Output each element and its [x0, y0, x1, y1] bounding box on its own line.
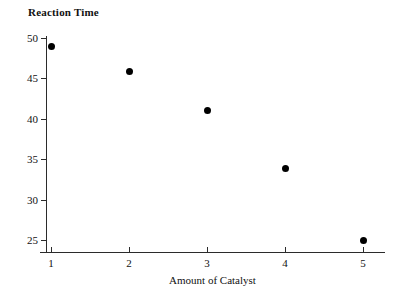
x-tick-label: 3 [195, 258, 219, 269]
data-point [48, 43, 55, 50]
y-tick-label: 25 [14, 235, 38, 246]
y-tick-label: 30 [14, 195, 38, 206]
x-tick-label: 1 [39, 258, 63, 269]
data-point [282, 165, 289, 172]
data-point [360, 237, 367, 244]
x-tick-label: 5 [351, 258, 375, 269]
x-axis-line [40, 252, 385, 253]
y-tick-mark [41, 119, 47, 120]
x-tick-mark [285, 247, 286, 253]
y-tick-label: 40 [14, 114, 38, 125]
x-tick-mark [129, 247, 130, 253]
scatter-plot-figure: Reaction Time 253035404550 12345 Amount … [0, 0, 399, 297]
x-tick-label: 2 [117, 258, 141, 269]
y-axis-line [46, 36, 47, 253]
data-point [126, 68, 133, 75]
y-axis-title: Reaction Time [28, 6, 99, 18]
y-tick-mark [41, 159, 47, 160]
y-tick-mark [41, 240, 47, 241]
y-tick-label: 35 [14, 154, 38, 165]
y-tick-mark [41, 38, 47, 39]
y-tick-mark [41, 78, 47, 79]
x-tick-mark [363, 247, 364, 253]
y-tick-label: 50 [14, 33, 38, 44]
x-tick-mark [207, 247, 208, 253]
y-tick-label: 45 [14, 73, 38, 84]
data-point [204, 107, 211, 114]
x-axis-title: Amount of Catalyst [0, 274, 399, 286]
x-tick-label: 4 [273, 258, 297, 269]
x-tick-mark [51, 247, 52, 253]
y-tick-mark [41, 200, 47, 201]
